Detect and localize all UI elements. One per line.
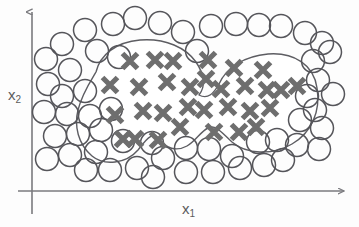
circle-marker	[270, 15, 293, 38]
circle-marker	[36, 148, 59, 171]
x-axis-label-text: x	[182, 200, 190, 217]
circle-marker	[124, 7, 147, 30]
circle-marker	[248, 14, 271, 37]
y-axis-label: x2	[8, 86, 21, 103]
y-axis-label-subscript: 2	[16, 94, 22, 105]
circle-marker	[198, 138, 221, 161]
circle-marker	[149, 12, 172, 35]
circle-marker	[172, 21, 195, 44]
circle-marker	[294, 22, 317, 45]
circle-marker	[59, 144, 82, 167]
circle-marker	[37, 73, 60, 96]
circle-marker	[86, 40, 109, 63]
circle-marker	[33, 101, 56, 124]
plot-canvas	[0, 0, 359, 227]
circle-marker	[74, 19, 97, 42]
circle-marker	[200, 15, 223, 38]
circle-marker	[44, 125, 67, 148]
y-axis-label-text: x	[8, 86, 16, 103]
circle-marker	[225, 13, 248, 36]
circle-marker	[322, 83, 345, 106]
circle-marker	[59, 59, 82, 82]
circle-marker	[102, 13, 125, 36]
circle-marker	[175, 161, 198, 184]
x-axis-label: x1	[182, 200, 195, 217]
circle-marker	[51, 33, 74, 56]
circle-marker	[202, 161, 225, 184]
circle-marker	[75, 159, 98, 182]
circle-marker	[35, 48, 58, 71]
circle-marker	[308, 138, 331, 161]
x-axis-label-subscript: 1	[190, 208, 196, 219]
scatter-plot-figure: x2 x1	[0, 0, 359, 227]
